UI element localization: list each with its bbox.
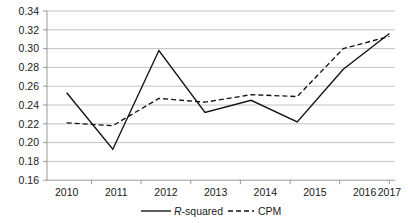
chart-container: 0.34 0.32 0.30 0.28 0.26 0.24 0.22 0.20 … bbox=[0, 0, 408, 223]
line-chart: 0.34 0.32 0.30 0.28 0.26 0.24 0.22 0.20 … bbox=[0, 0, 408, 223]
ytick-label: 0.26 bbox=[19, 80, 40, 92]
series-line-r-squared bbox=[67, 34, 390, 150]
legend-label-cpm: CPM bbox=[258, 205, 281, 217]
y-axis-ticks bbox=[43, 11, 47, 180]
y-axis-labels: 0.34 0.32 0.30 0.28 0.26 0.24 0.22 0.20 … bbox=[19, 5, 40, 186]
chart-legend: R-squared CPM bbox=[141, 205, 281, 217]
ytick-label: 0.18 bbox=[19, 155, 40, 167]
ytick-label: 0.22 bbox=[19, 118, 40, 130]
y-gridlines bbox=[47, 11, 395, 161]
x-axis-labels: 2010 2011 2012 2013 2014 2015 2016 2017 bbox=[55, 186, 401, 198]
xtick-label: 2012 bbox=[154, 186, 178, 198]
ytick-label: 0.28 bbox=[19, 61, 40, 73]
ytick-label: 0.24 bbox=[19, 99, 40, 111]
xtick-label: 2015 bbox=[303, 186, 327, 198]
xtick-label: 2017 bbox=[378, 186, 402, 198]
xtick-label: 2010 bbox=[55, 186, 79, 198]
ytick-label: 0.34 bbox=[19, 5, 40, 17]
ytick-label: 0.20 bbox=[19, 136, 40, 148]
series-line-cpm bbox=[67, 36, 390, 125]
ytick-label: 0.16 bbox=[19, 174, 40, 186]
xtick-label: 2013 bbox=[204, 186, 228, 198]
ytick-label: 0.32 bbox=[19, 24, 40, 36]
xtick-label: 2014 bbox=[254, 186, 278, 198]
ytick-label: 0.30 bbox=[19, 42, 40, 54]
legend-label-r-squared: R-squared bbox=[174, 205, 223, 217]
xtick-label: 2016 bbox=[353, 186, 377, 198]
xtick-label: 2011 bbox=[105, 186, 128, 198]
x-axis-ticks bbox=[92, 180, 390, 184]
